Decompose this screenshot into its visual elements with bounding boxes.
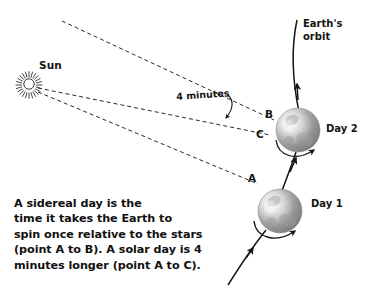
label-earths-orbit: Earth's orbit (303, 18, 342, 43)
earth-day-1 (258, 189, 302, 233)
diagram-caption: A sidereal day is the time it takes the … (14, 196, 222, 273)
label-day-2: Day 2 (326, 124, 358, 134)
sun-icon (16, 72, 42, 99)
sightline-sun-to-c (38, 88, 270, 135)
sightline-sun-to-a (38, 92, 258, 184)
label-sun: Sun (39, 60, 62, 71)
sightline-star-to-b (62, 21, 274, 120)
label-point-c: C (256, 129, 264, 140)
label-point-a: A (248, 173, 256, 184)
diagram-canvas: Sun Earth's orbit 4 minutes B C A Day 2 … (0, 0, 369, 293)
earth-day-2 (276, 108, 320, 152)
label-day-1: Day 1 (311, 199, 343, 209)
orbit-path-lower (228, 230, 266, 285)
orbit-path-upper (293, 20, 299, 112)
label-point-b: B (265, 109, 273, 120)
